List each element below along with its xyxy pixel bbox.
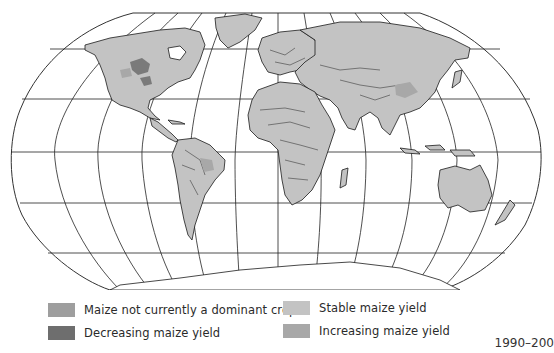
- legend-item-not-dominant: Maize not currently a dominant crop: [48, 303, 296, 317]
- north-america: [85, 14, 262, 142]
- legend-swatch-not-dominant: [48, 303, 75, 317]
- legend-swatch-stable: [283, 301, 310, 315]
- legend-item-decreasing: Decreasing maize yield: [48, 326, 220, 340]
- legend-swatch-decreasing: [48, 326, 75, 340]
- cut-off-caption: 1990–200: [495, 336, 554, 350]
- legend-item-increasing: Increasing maize yield: [283, 324, 450, 338]
- legend-item-stable: Stable maize yield: [283, 301, 427, 315]
- legend-swatch-increasing: [283, 324, 310, 338]
- legend-label: Increasing maize yield: [319, 324, 450, 338]
- legend-label: Stable maize yield: [319, 301, 427, 315]
- world-map: [0, 0, 550, 290]
- legend-label: Maize not currently a dominant crop: [84, 303, 296, 317]
- antarctica: [110, 262, 460, 290]
- south-america: [172, 138, 225, 240]
- australia: [438, 165, 515, 225]
- legend: Maize not currently a dominant crop Stab…: [0, 295, 550, 353]
- legend-label: Decreasing maize yield: [84, 326, 220, 340]
